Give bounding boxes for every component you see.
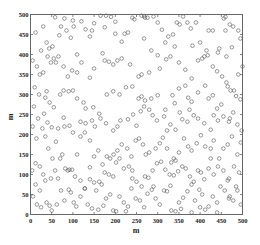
data-point bbox=[75, 71, 79, 75]
data-point bbox=[167, 35, 171, 39]
data-point bbox=[164, 168, 168, 172]
data-point bbox=[79, 135, 83, 139]
data-point bbox=[152, 15, 156, 19]
y-tick-label: 250 bbox=[19, 111, 29, 118]
data-point bbox=[216, 51, 220, 55]
data-point bbox=[56, 177, 60, 181]
data-point bbox=[207, 29, 211, 33]
data-point bbox=[126, 31, 130, 35]
data-point bbox=[172, 174, 176, 178]
data-point bbox=[215, 107, 219, 111]
data-point bbox=[38, 165, 42, 169]
data-point bbox=[220, 75, 224, 79]
data-point bbox=[206, 54, 210, 58]
data-point bbox=[226, 143, 230, 147]
data-point bbox=[99, 117, 103, 121]
data-point bbox=[79, 195, 83, 199]
x-tick-label: 100 bbox=[68, 217, 78, 224]
data-point bbox=[140, 185, 144, 189]
y-tick-label: 450 bbox=[19, 31, 29, 38]
data-point bbox=[103, 26, 107, 30]
data-point bbox=[184, 167, 188, 171]
data-point bbox=[114, 20, 118, 24]
data-point bbox=[190, 211, 194, 215]
data-point bbox=[58, 157, 62, 161]
data-point bbox=[231, 25, 235, 29]
data-point bbox=[164, 41, 168, 45]
data-point bbox=[120, 40, 124, 44]
data-point bbox=[120, 143, 124, 147]
data-point bbox=[90, 119, 94, 123]
data-point bbox=[126, 205, 130, 209]
data-point bbox=[225, 55, 229, 59]
data-point bbox=[203, 145, 207, 149]
data-point bbox=[134, 139, 138, 143]
y-tick-label: 150 bbox=[19, 151, 29, 158]
data-point bbox=[151, 114, 155, 118]
data-point bbox=[234, 94, 238, 98]
data-point bbox=[35, 203, 39, 207]
data-point bbox=[158, 67, 162, 71]
data-point bbox=[186, 145, 190, 149]
data-point bbox=[33, 86, 37, 90]
data-point bbox=[158, 142, 162, 146]
data-point bbox=[86, 203, 90, 207]
data-point bbox=[229, 89, 233, 93]
data-points bbox=[30, 14, 244, 214]
data-point bbox=[82, 101, 86, 105]
data-point bbox=[45, 90, 49, 94]
data-point bbox=[38, 189, 42, 193]
data-point bbox=[107, 173, 111, 177]
data-point bbox=[88, 139, 92, 143]
data-point bbox=[151, 169, 155, 173]
scatter-plot: 050100150200250300350400450500 050100150… bbox=[0, 0, 260, 245]
data-point bbox=[108, 193, 112, 197]
data-point bbox=[54, 61, 58, 65]
data-point bbox=[170, 161, 174, 165]
data-point bbox=[44, 179, 48, 183]
data-point bbox=[131, 85, 135, 89]
data-point bbox=[237, 29, 241, 33]
data-point bbox=[156, 21, 160, 25]
data-point bbox=[31, 59, 35, 63]
data-point bbox=[103, 171, 107, 175]
data-point bbox=[73, 175, 77, 179]
data-point bbox=[211, 94, 215, 98]
data-point bbox=[59, 25, 63, 29]
data-point bbox=[198, 188, 202, 192]
data-point bbox=[173, 45, 177, 49]
x-tick-label: 0 bbox=[29, 217, 32, 224]
data-point bbox=[42, 112, 46, 116]
data-point bbox=[231, 199, 235, 203]
data-point bbox=[41, 127, 45, 131]
data-point bbox=[184, 68, 188, 72]
data-point bbox=[178, 111, 182, 115]
data-point bbox=[34, 31, 38, 35]
data-point bbox=[232, 165, 236, 169]
data-point bbox=[93, 125, 97, 129]
data-point bbox=[140, 95, 144, 99]
data-point bbox=[142, 105, 146, 109]
data-point bbox=[51, 157, 55, 161]
data-point bbox=[147, 71, 151, 75]
data-point bbox=[101, 52, 105, 56]
data-point bbox=[130, 187, 134, 191]
data-point bbox=[120, 57, 124, 61]
data-point bbox=[48, 101, 52, 105]
data-point bbox=[84, 28, 88, 32]
data-point bbox=[135, 180, 139, 184]
data-point bbox=[209, 147, 213, 151]
data-point bbox=[239, 98, 243, 102]
data-point bbox=[207, 167, 211, 171]
data-point bbox=[177, 61, 181, 65]
data-point bbox=[90, 29, 94, 33]
data-point bbox=[186, 96, 190, 100]
data-point bbox=[182, 137, 186, 141]
data-point bbox=[223, 189, 227, 193]
data-point bbox=[130, 155, 134, 159]
data-point bbox=[196, 117, 200, 121]
data-point bbox=[97, 149, 101, 153]
data-point bbox=[84, 107, 88, 111]
data-point bbox=[55, 203, 59, 207]
data-point bbox=[104, 197, 108, 201]
